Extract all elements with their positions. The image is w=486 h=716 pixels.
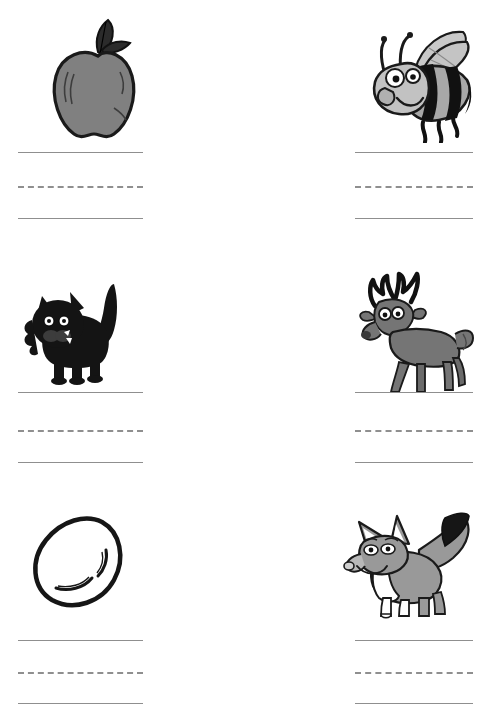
egg-illustration <box>0 480 243 625</box>
writing-line-middle <box>18 186 143 188</box>
writing-line-top <box>18 640 143 641</box>
writing-line-bottom <box>355 703 473 704</box>
writing-line-middle <box>355 430 473 432</box>
worksheet-cell-egg <box>0 480 243 716</box>
worksheet-cell-deer <box>243 240 486 480</box>
worksheet-page <box>0 0 486 716</box>
writing-line-bottom <box>355 462 473 463</box>
deer-illustration <box>243 240 486 385</box>
fox-illustration <box>243 480 486 625</box>
writing-line-middle <box>18 672 143 674</box>
worksheet-cell-fox <box>243 480 486 716</box>
worksheet-cell-bee <box>243 0 486 240</box>
apple-illustration <box>0 0 243 145</box>
worksheet-cell-apple <box>0 0 243 240</box>
writing-line-middle <box>355 672 473 674</box>
writing-line-bottom <box>18 462 143 463</box>
cat-illustration <box>0 240 243 385</box>
writing-line-top <box>355 152 473 153</box>
writing-line-bottom <box>18 703 143 704</box>
bee-illustration <box>243 0 486 145</box>
writing-line-top <box>18 152 143 153</box>
worksheet-cell-cat <box>0 240 243 480</box>
writing-line-bottom <box>355 218 473 219</box>
writing-line-bottom <box>18 218 143 219</box>
writing-line-middle <box>355 186 473 188</box>
writing-line-top <box>355 640 473 641</box>
writing-line-middle <box>18 430 143 432</box>
